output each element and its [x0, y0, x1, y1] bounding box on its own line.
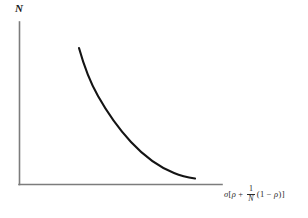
figure-root: N σ[ρ+ 1 N (1−ρ)] [0, 0, 308, 218]
fraction-denominator: N [247, 195, 254, 204]
decay-curve [79, 48, 195, 179]
fraction-numerator: 1 [248, 185, 254, 194]
minus-operator: − [264, 190, 274, 199]
x-axis-label: σ[ρ+ 1 N (1−ρ)] [224, 185, 306, 204]
plus-operator: + [236, 190, 246, 199]
one-over-n-fraction: 1 N [247, 185, 255, 204]
y-axis-label: N [15, 3, 23, 14]
close-bracket: ] [282, 190, 285, 199]
